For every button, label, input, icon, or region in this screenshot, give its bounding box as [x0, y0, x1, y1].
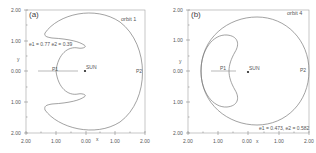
x-tick-b-0: 2.00 [183, 139, 193, 144]
x-tick-b-4: 2.00 [304, 139, 314, 144]
sun-marker [247, 71, 249, 73]
p1-label-b: P1 [220, 66, 226, 71]
x-tick-a-4: 2.00 [140, 139, 150, 144]
orbit-title-b: orbit 4 [287, 11, 302, 17]
x-tick-a-2: 0.00 [81, 139, 91, 144]
x-tick-a-1: 1.00 [51, 139, 61, 144]
x-tick-b-2: 0.00 [242, 139, 252, 144]
panel-a-plot [0, 0, 158, 153]
x-axis-label-b: x [256, 139, 259, 144]
y-tick-a-0: 2.00 [11, 8, 21, 13]
x-tick-b-1: 1.00 [213, 139, 223, 144]
y-tick-a-2: 0.00 [11, 69, 21, 74]
x-tick-a-0: 2.00 [21, 139, 31, 144]
y-axis-label-a: y [17, 57, 20, 62]
y-axis-label-b: y [179, 59, 182, 64]
y-tick-b-4: 2.00 [173, 131, 183, 136]
y-tick-a-1: 1.00 [11, 39, 21, 44]
eccentricity-annotation-b: e1 = 0.473, e2 = 0.582 [259, 126, 309, 131]
panel-label-b: (b) [191, 11, 201, 19]
panel-b: (b) orbit 4 e1 = 0.473, e2 = 0.582 SUN P… [158, 0, 316, 153]
sun-label-b: SUN [249, 66, 260, 71]
panel-a: (a) orbit 1 e1 = 0.77 e2 = 0.39 SUN P1 P… [0, 0, 158, 153]
p2-label-b: P2 [300, 68, 306, 73]
sun-label-a: SUN [86, 65, 97, 70]
orbit-title-a: orbit 1 [121, 17, 136, 23]
sun-marker [84, 70, 86, 72]
y-tick-b-3: 1.00 [173, 100, 183, 105]
y-tick-a-4: 2.00 [11, 131, 21, 136]
y-tick-b-0: 2.00 [173, 8, 183, 13]
y-tick-a-3: 1.00 [11, 100, 21, 105]
x-tick-a-3: 1.00 [110, 139, 120, 144]
eccentricity-annotation-a: e1 = 0.77 e2 = 0.39 [29, 42, 72, 47]
x-axis-label-a: x [96, 137, 99, 142]
panel-label-a: (a) [29, 11, 39, 19]
x-tick-b-3: 1.00 [274, 139, 284, 144]
orbit-1-curve [45, 13, 143, 130]
y-tick-b-2: 0.00 [173, 69, 183, 74]
p1-label-a: P1 [52, 67, 58, 72]
y-tick-b-1: 1.00 [173, 38, 183, 43]
p2-label-a: P2 [136, 69, 142, 74]
